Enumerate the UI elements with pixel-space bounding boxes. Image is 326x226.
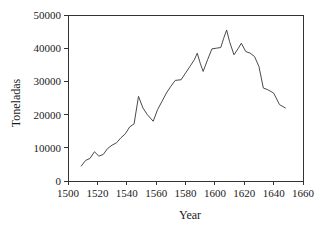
x-tick-label: 1540 (116, 187, 139, 199)
axis-frame (68, 15, 303, 181)
y-axis-tick-labels: 01000020000300004000050000 (34, 9, 62, 187)
x-axis-tick-labels: 150015201540156015801600162016401660 (57, 187, 315, 199)
chart-container: 01000020000300004000050000 1500152015401… (0, 0, 326, 226)
y-tick-label: 20000 (34, 109, 62, 121)
x-tick-label: 1600 (204, 187, 227, 199)
x-tick-label: 1500 (57, 187, 80, 199)
x-tick-label: 1560 (145, 187, 168, 199)
x-axis-title: Year (179, 208, 201, 222)
x-tick-label: 1620 (233, 187, 256, 199)
series-line-toneladas (81, 30, 285, 166)
y-tick-label: 30000 (34, 75, 62, 87)
x-tick-label: 1640 (263, 187, 286, 199)
y-tick-label: 0 (56, 175, 62, 187)
plot-frame (68, 15, 303, 181)
x-tick-label: 1520 (86, 187, 109, 199)
line-chart: 01000020000300004000050000 1500152015401… (0, 0, 326, 226)
y-axis-title: Toneladas (9, 78, 23, 127)
x-axis-ticks (68, 181, 303, 185)
y-tick-label: 10000 (34, 142, 62, 154)
y-axis-ticks (64, 15, 68, 181)
x-tick-label: 1660 (292, 187, 315, 199)
data-series-group (81, 30, 285, 166)
y-tick-label: 50000 (34, 9, 62, 21)
x-tick-label: 1580 (175, 187, 198, 199)
y-tick-label: 40000 (34, 42, 62, 54)
